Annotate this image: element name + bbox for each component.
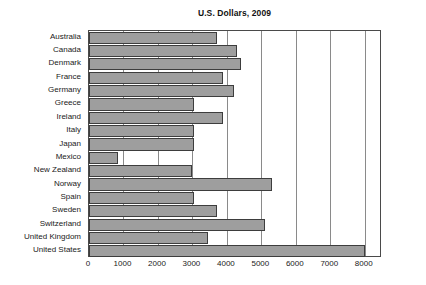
- y-axis-label: Germany: [48, 85, 81, 95]
- y-axis-label: Sweden: [52, 205, 81, 215]
- x-axis-tick-label: 4000: [217, 259, 235, 268]
- x-axis-tick-label: 0: [86, 259, 90, 268]
- y-axis-label: Japan: [59, 139, 81, 149]
- y-axis-label: Mexico: [56, 152, 81, 162]
- y-axis-category-labels: AustraliaCanadaDenmarkFranceGermanyGreec…: [0, 30, 85, 257]
- bar-row: [89, 32, 380, 44]
- bar[interactable]: [89, 112, 223, 124]
- x-axis-tick-labels: 010002000300040005000600070008000: [0, 259, 426, 273]
- chart-title: U.S. Dollars, 2009: [88, 8, 381, 18]
- bar-row: [89, 245, 380, 257]
- y-axis-label: Norway: [54, 179, 81, 189]
- bar-row: [89, 58, 380, 70]
- x-axis-tick-label: 2000: [148, 259, 166, 268]
- x-axis-tick-label: 1000: [114, 259, 132, 268]
- y-axis-label: United States: [33, 245, 81, 255]
- bar-chart: U.S. Dollars, 2009 AustraliaCanadaDenmar…: [0, 0, 426, 285]
- bar[interactable]: [89, 205, 217, 217]
- bar-row: [89, 45, 380, 57]
- x-axis-tick-label: 3000: [183, 259, 201, 268]
- y-axis-label: France: [56, 72, 81, 82]
- bar-row: [89, 98, 380, 110]
- x-axis-tick-label: 7000: [320, 259, 338, 268]
- bar[interactable]: [89, 72, 223, 84]
- bar[interactable]: [89, 125, 194, 137]
- bar-row: [89, 125, 380, 137]
- bar[interactable]: [89, 152, 118, 164]
- y-axis-label: New Zealand: [34, 165, 81, 175]
- plot-area: [88, 30, 381, 257]
- x-axis-tick-label: 8000: [355, 259, 373, 268]
- y-axis-label: Spain: [61, 192, 81, 202]
- bar-row: [89, 219, 380, 231]
- bar[interactable]: [89, 232, 208, 244]
- bar-row: [89, 72, 380, 84]
- bar-row: [89, 232, 380, 244]
- bar-row: [89, 112, 380, 124]
- bars-layer: [89, 31, 380, 256]
- bar[interactable]: [89, 32, 217, 44]
- bar[interactable]: [89, 85, 234, 97]
- y-axis-label: United Kingdom: [24, 232, 81, 242]
- y-axis-label: Australia: [50, 32, 81, 42]
- bar[interactable]: [89, 165, 192, 177]
- bar[interactable]: [89, 138, 194, 150]
- bar[interactable]: [89, 219, 265, 231]
- bar[interactable]: [89, 98, 194, 110]
- y-axis-label: Denmark: [49, 58, 81, 68]
- bar[interactable]: [89, 245, 365, 257]
- x-axis-tick-label: 5000: [251, 259, 269, 268]
- bar[interactable]: [89, 58, 241, 70]
- bar-row: [89, 165, 380, 177]
- bar[interactable]: [89, 192, 194, 204]
- bar-row: [89, 178, 380, 190]
- y-axis-label: Greece: [55, 98, 81, 108]
- bar-row: [89, 152, 380, 164]
- y-axis-label: Switzerland: [40, 219, 81, 229]
- bar-row: [89, 205, 380, 217]
- bar-row: [89, 85, 380, 97]
- x-axis-tick-label: 6000: [286, 259, 304, 268]
- bar-row: [89, 138, 380, 150]
- bar-row: [89, 192, 380, 204]
- bar[interactable]: [89, 45, 237, 57]
- y-axis-label: Italy: [66, 125, 81, 135]
- y-axis-label: Ireland: [57, 112, 81, 122]
- bar[interactable]: [89, 178, 272, 190]
- y-axis-label: Canada: [53, 45, 81, 55]
